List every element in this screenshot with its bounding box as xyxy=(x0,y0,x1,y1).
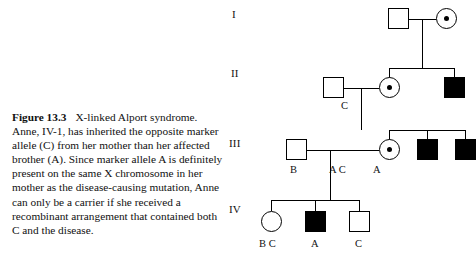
individual-iii-4-affected-square xyxy=(455,139,476,160)
figure-number: Figure 13.3 xyxy=(12,111,66,123)
caption-line-3: brother (A). Since marker allele A is de… xyxy=(12,153,222,165)
allele-label-iv-2: A xyxy=(311,238,319,249)
sibline-drop-iv-3 xyxy=(359,200,360,211)
figure-title: X-linked Alport syndrome. xyxy=(75,111,197,123)
individual-i-1-male-square xyxy=(388,8,409,29)
descent-line-gen3 xyxy=(330,150,331,200)
mating-line-gen3 xyxy=(307,150,379,151)
caption-line-4: present on the same X chromosome in her xyxy=(12,167,202,179)
generation-label-iv: IV xyxy=(229,203,241,215)
individual-iii-2-carrier-circle xyxy=(379,139,400,160)
figure-caption: Figure 13.3X-linked Alport syndrome. Ann… xyxy=(12,110,224,237)
allele-label-iii-1: B xyxy=(290,164,297,175)
caption-line-1: Anne, IV-1, has inherited the opposite m… xyxy=(12,125,219,137)
descent-line-gen1 xyxy=(422,19,423,68)
allele-label-ii-1: C xyxy=(341,100,348,111)
sibline-drop-iv-1 xyxy=(271,200,272,211)
caption-line-5: mother as the disease-causing mutation, … xyxy=(12,181,219,193)
individual-iv-1-female-circle xyxy=(261,211,282,232)
generation-label-i: I xyxy=(232,8,236,20)
caption-line-7: recombinant arrangement that contained b… xyxy=(12,210,217,222)
descent-line-gen2 xyxy=(361,88,362,130)
individual-iii-1-male-square xyxy=(286,139,307,160)
individual-iii-3-affected-square xyxy=(417,139,438,160)
individual-iv-3-male-square xyxy=(349,211,370,232)
caption-line-2: allele (C) from her mother than her affe… xyxy=(12,139,210,151)
generation-label-iii: III xyxy=(229,137,241,149)
allele-label-iii-2: A C xyxy=(329,164,346,175)
allele-label-iv-1: B C xyxy=(259,238,276,249)
sibline-drop-iv-2 xyxy=(315,200,316,211)
caption-line-6: can only be a carrier if she received a xyxy=(12,196,181,208)
caption-line-8: C and the disease. xyxy=(12,224,94,236)
individual-ii-3-affected-square xyxy=(444,77,465,98)
individual-iv-2-affected-square xyxy=(305,211,326,232)
individual-i-2-carrier-circle xyxy=(436,8,457,29)
allele-label-iii-3: A xyxy=(373,164,381,175)
allele-label-iv-3: C xyxy=(355,238,362,249)
generation-label-ii: II xyxy=(231,67,239,79)
sibship-line-gen2 xyxy=(389,68,455,69)
individual-ii-2-carrier-circle xyxy=(379,77,400,98)
individual-ii-1-male-square xyxy=(323,77,344,98)
